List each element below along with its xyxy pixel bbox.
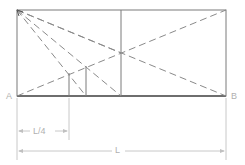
construction-diagram — [0, 0, 245, 165]
label-total-length: L — [115, 146, 120, 155]
label-point-a: A — [6, 92, 12, 101]
label-quarter-length: L/4 — [33, 127, 46, 136]
diagonal-topleft-to-midright — [17, 10, 121, 53]
arrowhead — [18, 149, 23, 153]
arrowhead — [220, 149, 225, 153]
arrowhead — [63, 129, 68, 133]
diagonal-topleft-to-third — [17, 10, 86, 96]
arrowhead — [18, 129, 23, 133]
label-point-b: B — [231, 92, 237, 101]
